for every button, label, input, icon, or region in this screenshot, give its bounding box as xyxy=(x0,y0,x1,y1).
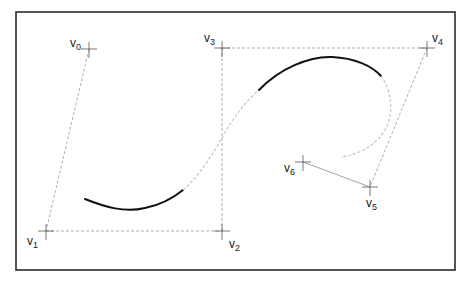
control-point-labels: v0v1v2v3v4v5v6 xyxy=(27,31,443,253)
control-edge-v4-v5 xyxy=(370,48,427,187)
control-edge-v0-v1 xyxy=(46,49,89,231)
label-v6: v6 xyxy=(284,161,295,177)
cross-marker-icon-v5 xyxy=(362,180,378,196)
label-v1: v1 xyxy=(27,234,38,250)
cross-marker-icon-v6 xyxy=(295,155,311,171)
label-v3: v3 xyxy=(204,31,215,47)
curve-segment-0 xyxy=(85,190,183,210)
b-spline-diagram: v0v1v2v3v4v5v6 xyxy=(0,0,470,283)
cross-marker-icon-v3 xyxy=(214,41,230,57)
spline-curve xyxy=(85,57,391,210)
control-edge-v5-v6 xyxy=(303,162,370,187)
label-v2: v2 xyxy=(229,237,240,253)
curve-segment-2 xyxy=(259,57,381,90)
cross-marker-icon-v1 xyxy=(38,224,54,240)
curve-segment-1 xyxy=(183,90,259,190)
label-v0: v0 xyxy=(70,36,81,52)
curve-segment-3 xyxy=(341,76,391,157)
cross-marker-icon-v0 xyxy=(81,42,97,58)
cross-marker-icon-v2 xyxy=(214,224,230,240)
label-v5: v5 xyxy=(366,196,377,212)
label-v4: v4 xyxy=(432,31,443,47)
